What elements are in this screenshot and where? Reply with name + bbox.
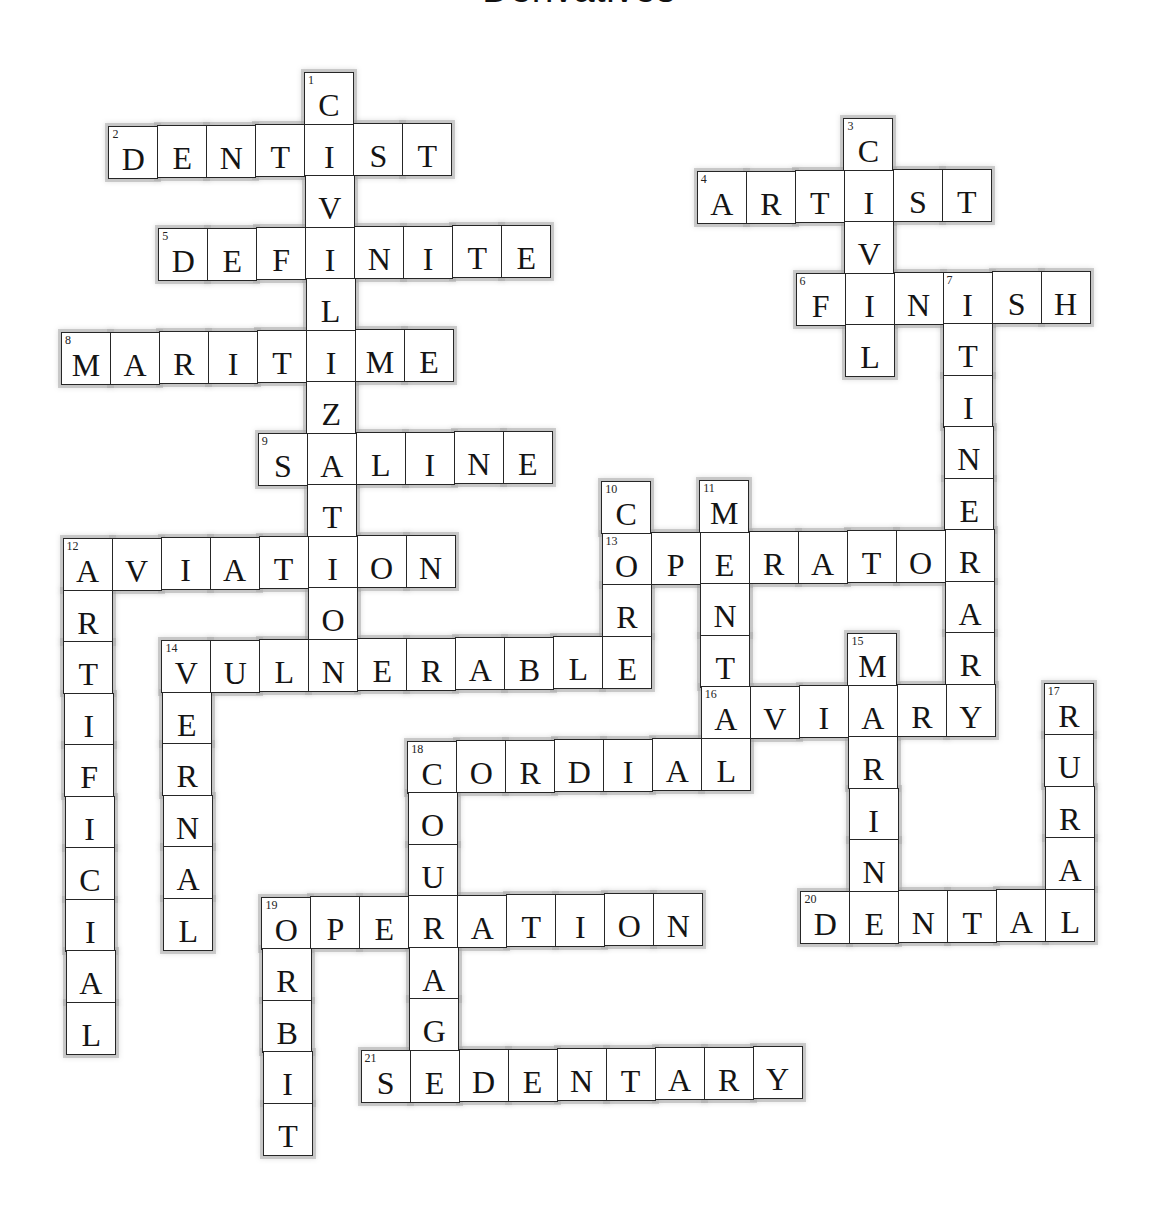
crossword-cell[interactable]: E — [849, 891, 899, 944]
crossword-cell[interactable]: R — [505, 740, 555, 793]
crossword-cell[interactable]: 19O — [261, 897, 311, 950]
crossword-cell[interactable]: I — [208, 331, 258, 384]
crossword-cell[interactable]: R — [848, 736, 898, 789]
crossword-cell[interactable]: R — [406, 638, 456, 691]
crossword-cell[interactable]: I — [799, 685, 849, 738]
crossword-cell[interactable]: 18C — [407, 741, 457, 794]
crossword-cell[interactable]: N — [653, 893, 703, 946]
crossword-cell[interactable]: 3C — [843, 118, 893, 171]
crossword-cell[interactable]: R — [746, 171, 796, 224]
crossword-cell[interactable]: 2D — [108, 126, 158, 179]
crossword-cell[interactable]: H — [1041, 271, 1091, 324]
crossword-cell[interactable]: R — [159, 331, 209, 384]
crossword-cell[interactable]: P — [651, 532, 701, 585]
crossword-cell[interactable]: T — [402, 123, 452, 176]
crossword-cell[interactable]: R — [408, 895, 458, 948]
crossword-cell[interactable]: R — [945, 632, 995, 685]
crossword-cell[interactable]: 20D — [800, 891, 850, 944]
crossword-cell[interactable]: N — [894, 272, 944, 325]
crossword-cell[interactable]: I — [304, 124, 354, 177]
crossword-cell[interactable]: R — [602, 584, 652, 637]
crossword-cell[interactable]: 4A — [697, 171, 747, 224]
crossword-cell[interactable]: A — [66, 950, 116, 1003]
crossword-cell[interactable]: E — [357, 638, 407, 691]
crossword-cell[interactable]: Y — [753, 1046, 803, 1099]
crossword-cell[interactable]: 1C — [304, 72, 354, 125]
crossword-cell[interactable]: A — [945, 581, 995, 634]
crossword-cell[interactable]: A — [409, 947, 459, 1000]
crossword-cell[interactable]: 11M — [699, 480, 749, 533]
crossword-cell[interactable]: N — [406, 535, 456, 588]
crossword-cell[interactable]: 12A — [63, 538, 113, 591]
crossword-cell[interactable]: T — [263, 1103, 313, 1156]
crossword-cell[interactable]: R — [945, 529, 995, 582]
crossword-cell[interactable]: I — [849, 788, 899, 841]
crossword-cell[interactable]: E — [602, 636, 652, 689]
crossword-cell[interactable]: N — [308, 639, 358, 692]
crossword-cell[interactable]: I — [65, 796, 115, 849]
crossword-cell[interactable]: L — [553, 636, 603, 689]
crossword-cell[interactable]: L — [701, 738, 751, 791]
crossword-cell[interactable]: L — [66, 1002, 116, 1055]
crossword-cell[interactable]: I — [555, 894, 605, 947]
crossword-cell[interactable]: I — [263, 1051, 313, 1104]
crossword-cell[interactable]: L — [259, 639, 309, 692]
crossword-cell[interactable]: T — [506, 894, 556, 947]
crossword-cell[interactable]: E — [162, 692, 212, 745]
crossword-cell[interactable]: V — [305, 175, 355, 228]
crossword-cell[interactable]: 16A — [701, 686, 751, 739]
crossword-cell[interactable]: A — [210, 537, 260, 590]
crossword-cell[interactable]: E — [700, 532, 750, 585]
crossword-cell[interactable]: L — [163, 898, 213, 951]
crossword-cell[interactable]: T — [943, 323, 993, 376]
crossword-cell[interactable]: 8M — [61, 332, 111, 385]
crossword-cell[interactable]: Z — [306, 381, 356, 434]
crossword-cell[interactable]: T — [307, 484, 357, 537]
crossword-cell[interactable]: I — [403, 226, 453, 279]
crossword-cell[interactable]: N — [944, 426, 994, 479]
crossword-cell[interactable]: A — [455, 637, 505, 690]
crossword-cell[interactable]: L — [356, 432, 406, 485]
crossword-cell[interactable]: F — [256, 227, 306, 280]
crossword-cell[interactable]: A — [996, 889, 1046, 942]
crossword-cell[interactable]: A — [457, 895, 507, 948]
crossword-cell[interactable]: R — [749, 531, 799, 584]
crossword-cell[interactable]: 7I — [943, 272, 993, 325]
crossword-cell[interactable]: A — [1045, 837, 1095, 890]
crossword-cell[interactable]: O — [896, 530, 946, 583]
crossword-cell[interactable]: A — [652, 738, 702, 791]
crossword-cell[interactable]: I — [844, 170, 894, 223]
crossword-cell[interactable]: V — [844, 221, 894, 274]
crossword-cell[interactable]: T — [947, 890, 997, 943]
crossword-cell[interactable]: C — [65, 847, 115, 900]
crossword-cell[interactable]: A — [848, 685, 898, 738]
crossword-cell[interactable]: O — [357, 535, 407, 588]
crossword-cell[interactable]: 6F — [796, 273, 846, 326]
crossword-cell[interactable]: A — [110, 332, 160, 385]
crossword-cell[interactable]: I — [305, 227, 355, 280]
crossword-cell[interactable]: P — [310, 896, 360, 949]
crossword-cell[interactable]: T — [700, 635, 750, 688]
crossword-cell[interactable]: T — [63, 641, 113, 694]
crossword-cell[interactable]: N — [206, 125, 256, 178]
crossword-cell[interactable]: T — [795, 170, 845, 223]
crossword-cell[interactable]: E — [207, 228, 257, 281]
crossword-cell[interactable]: D — [459, 1049, 509, 1102]
crossword-cell[interactable]: G — [409, 998, 459, 1051]
crossword-cell[interactable]: E — [404, 329, 454, 382]
crossword-cell[interactable]: U — [1044, 734, 1094, 787]
crossword-cell[interactable]: T — [255, 124, 305, 177]
crossword-cell[interactable]: O — [308, 587, 358, 640]
crossword-cell[interactable]: S — [992, 271, 1042, 324]
crossword-cell[interactable]: O — [604, 893, 654, 946]
crossword-cell[interactable]: I — [943, 375, 993, 428]
crossword-cell[interactable]: A — [163, 846, 213, 899]
crossword-cell[interactable]: T — [847, 530, 897, 583]
crossword-cell[interactable]: I — [308, 536, 358, 589]
crossword-cell[interactable]: E — [508, 1049, 558, 1102]
crossword-cell[interactable]: M — [355, 329, 405, 382]
crossword-cell[interactable]: N — [163, 795, 213, 848]
crossword-cell[interactable]: 14V — [161, 640, 211, 693]
crossword-cell[interactable]: T — [259, 536, 309, 589]
crossword-cell[interactable]: 9S — [258, 433, 308, 486]
